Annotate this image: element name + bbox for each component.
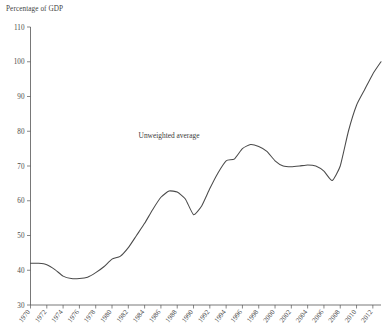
x-axis-tick-label: 2000	[262, 308, 277, 324]
x-axis-tick-label: 2010	[343, 308, 358, 324]
y-axis-tick-label: 100	[14, 58, 25, 66]
x-axis-tick-label: 1986	[148, 308, 163, 324]
x-axis-tick-label: 1976	[66, 308, 81, 324]
x-axis-tick-label: 1992	[196, 308, 211, 324]
y-axis-tick-label: 110	[14, 24, 25, 32]
y-axis: 30405060708090100110	[14, 24, 31, 310]
x-axis-tick-label: 2006	[311, 308, 326, 324]
y-axis-tick-label: 70	[17, 163, 25, 171]
x-axis: 1970197219741976197819801982198419861988…	[17, 305, 381, 324]
x-axis-tick-label: 2004	[294, 308, 309, 324]
x-axis-tick-label: 1998	[245, 308, 260, 324]
x-axis-tick-label: 1990	[180, 308, 195, 324]
x-axis-tick-label: 1984	[131, 308, 146, 324]
y-axis-tick-label: 90	[17, 93, 25, 101]
chart-annotations: Unweighted average	[139, 131, 201, 140]
chart-plot-area: 30405060708090100110 1970197219741976197…	[0, 0, 388, 331]
x-axis-tick-label: 1982	[115, 308, 130, 324]
x-axis-tick-label: 1996	[229, 308, 244, 324]
x-axis-tick-label: 2008	[327, 308, 342, 324]
series-label-unweighted-average: Unweighted average	[139, 131, 201, 140]
x-axis-tick-label: 2012	[360, 308, 375, 324]
chart-container: Percentage of GDP 30405060708090100110 1…	[0, 0, 388, 331]
y-axis-tick-label: 30	[17, 302, 25, 310]
y-axis-tick-label: 40	[17, 267, 25, 275]
y-axis-tick-label: 60	[17, 197, 25, 205]
x-axis-tick-label: 1974	[50, 308, 65, 324]
x-axis-tick-label: 1978	[82, 308, 97, 324]
x-axis-tick-label: 1970	[17, 308, 32, 324]
data-series-group	[31, 62, 382, 279]
y-axis-tick-label: 50	[17, 232, 25, 240]
y-axis-tick-label: 80	[17, 128, 25, 136]
x-axis-tick-label: 1988	[164, 308, 179, 324]
x-axis-tick-label: 1980	[99, 308, 114, 324]
data-line-unweighted-average	[31, 62, 382, 279]
x-axis-tick-label: 1972	[33, 308, 48, 324]
x-axis-tick-label: 1994	[213, 308, 228, 324]
x-axis-tick-label: 2002	[278, 308, 293, 324]
